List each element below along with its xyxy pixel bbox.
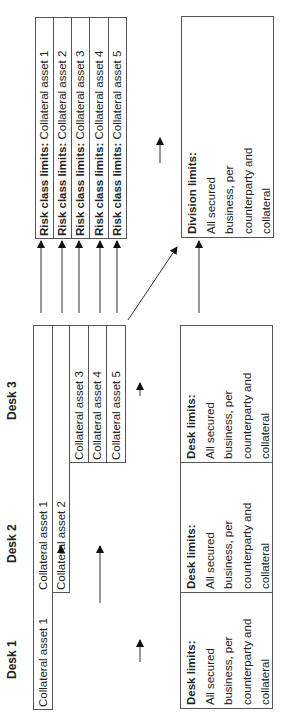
limit-hierarchy-diagram: Desk 1 Desk 2 Desk 3 Collateral asset 1 … bbox=[0, 0, 283, 723]
arrow-icon bbox=[41, 138, 199, 662]
arrows-layer bbox=[0, 0, 283, 723]
